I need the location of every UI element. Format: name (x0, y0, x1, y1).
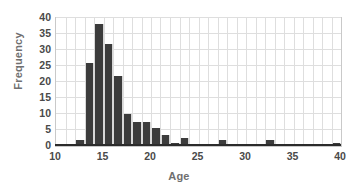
x-tick-label: 40 (325, 150, 355, 162)
histogram-bar (142, 122, 152, 146)
x-tick-label: 25 (183, 150, 213, 162)
x-tick-label: 20 (135, 150, 165, 162)
y-tick-label: 25 (23, 60, 51, 70)
histogram-bar (104, 44, 114, 146)
y-tick-label: 40 (23, 12, 51, 22)
y-tick-label: 5 (23, 124, 51, 134)
y-tick-label: 30 (23, 44, 51, 54)
histogram-bar (132, 122, 142, 146)
x-axis-line (55, 144, 341, 146)
x-tick-label: 35 (278, 150, 308, 162)
histogram-bar (113, 76, 123, 146)
x-tick-label: 30 (230, 150, 260, 162)
bar-series (56, 18, 341, 146)
x-axis-title: Age (0, 170, 358, 182)
plot-area (55, 17, 342, 147)
x-tick-label: 15 (88, 150, 118, 162)
y-tick-label: 0 (23, 140, 51, 150)
histogram-chart: Frequency 0510152025303540 1015202530354… (0, 0, 358, 189)
y-tick-label: 35 (23, 28, 51, 38)
x-tick-label: 10 (40, 150, 70, 162)
histogram-bar (94, 24, 104, 146)
y-tick-label: 20 (23, 76, 51, 86)
x-axis-tick-labels: 10152025303540 (55, 150, 340, 164)
histogram-bar (85, 63, 95, 146)
y-tick-label: 15 (23, 92, 51, 102)
y-tick-label: 10 (23, 108, 51, 118)
histogram-bar (123, 114, 133, 146)
